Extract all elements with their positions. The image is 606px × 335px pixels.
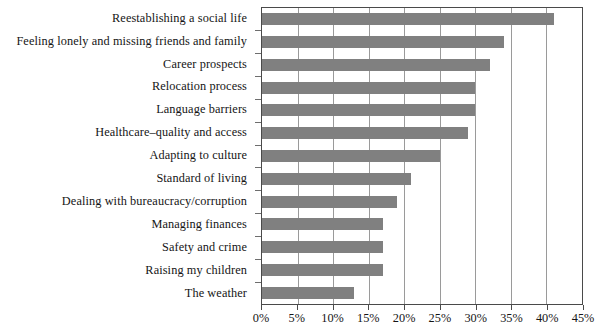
x-axis-tick-label: 10%	[321, 311, 344, 326]
bar-row	[262, 76, 582, 99]
bar	[262, 59, 490, 71]
x-axis-tick-label: 20%	[393, 311, 416, 326]
bar-row	[262, 31, 582, 54]
category-label: Managing finances	[151, 218, 247, 232]
x-axis-tick-label: 30%	[464, 311, 487, 326]
category-label-row: Relocation process	[0, 76, 254, 99]
category-label-row: Career prospects	[0, 53, 254, 76]
category-label-row: Managing finances	[0, 213, 254, 236]
bar-row	[262, 236, 582, 259]
bar	[262, 264, 383, 276]
category-label-row: Dealing with bureaucracy/corruption	[0, 190, 254, 213]
x-axis-tick	[440, 305, 441, 310]
bar	[262, 173, 411, 185]
x-axis: 0%5%10%15%20%25%30%35%40%45%	[261, 305, 583, 335]
x-axis-tick-label: 40%	[536, 311, 559, 326]
x-axis-tick-label: 15%	[357, 311, 380, 326]
category-label: Standard of living	[156, 172, 247, 186]
bar	[262, 13, 554, 25]
bar-row	[262, 167, 582, 190]
x-axis-tick-label: 25%	[429, 311, 452, 326]
bar-chart: Reestablishing a social lifeFeeling lone…	[0, 0, 606, 335]
x-axis-tick-label: 35%	[500, 311, 523, 326]
bar-row	[262, 122, 582, 145]
category-label-row: Raising my children	[0, 259, 254, 282]
x-axis-tick	[511, 305, 512, 310]
bar	[262, 82, 475, 94]
category-label: Reestablishing a social life	[112, 12, 247, 26]
category-label: Adapting to culture	[149, 149, 247, 163]
x-axis-tick	[333, 305, 334, 310]
x-axis-tick	[583, 305, 584, 310]
x-axis-tick	[547, 305, 548, 310]
bar-row	[262, 258, 582, 281]
x-axis-tick	[368, 305, 369, 310]
plot-area	[261, 7, 583, 305]
bar	[262, 36, 504, 48]
category-axis-labels: Reestablishing a social lifeFeeling lone…	[0, 7, 254, 305]
x-axis-tick-label: 5%	[289, 311, 305, 326]
x-axis-tick	[404, 305, 405, 310]
category-label: Language barriers	[156, 103, 247, 117]
category-label-row: Feeling lonely and missing friends and f…	[0, 30, 254, 53]
bar	[262, 196, 397, 208]
bar	[262, 218, 383, 230]
bar-row	[262, 190, 582, 213]
x-axis-tick-label: 45%	[572, 311, 595, 326]
x-axis-tick	[297, 305, 298, 310]
bar-row	[262, 99, 582, 122]
bar-row	[262, 281, 582, 304]
bar-row	[262, 54, 582, 77]
bar	[262, 287, 354, 299]
category-label: Career prospects	[163, 58, 247, 72]
category-label: Feeling lonely and missing friends and f…	[16, 35, 247, 49]
bar-row	[262, 213, 582, 236]
category-label-row: Healthcare–quality and access	[0, 122, 254, 145]
x-axis-tick	[261, 305, 262, 310]
bar	[262, 127, 468, 139]
category-label: Safety and crime	[162, 241, 247, 255]
category-label: Healthcare–quality and access	[95, 126, 247, 140]
x-axis-tick	[476, 305, 477, 310]
category-label-row: Reestablishing a social life	[0, 7, 254, 30]
category-label-row: The weather	[0, 282, 254, 305]
bar-row	[262, 145, 582, 168]
bar-row	[262, 8, 582, 31]
category-label-row: Safety and crime	[0, 236, 254, 259]
category-label: Raising my children	[145, 264, 247, 278]
x-axis-tick-label: 0%	[253, 311, 269, 326]
category-label-row: Standard of living	[0, 167, 254, 190]
category-label: The weather	[185, 287, 247, 301]
category-label-row: Language barriers	[0, 99, 254, 122]
category-label: Dealing with bureaucracy/corruption	[62, 195, 247, 209]
bar	[262, 241, 383, 253]
bar	[262, 150, 440, 162]
bar	[262, 104, 475, 116]
category-label: Relocation process	[152, 80, 247, 94]
bar-series	[262, 8, 582, 304]
category-label-row: Adapting to culture	[0, 145, 254, 168]
